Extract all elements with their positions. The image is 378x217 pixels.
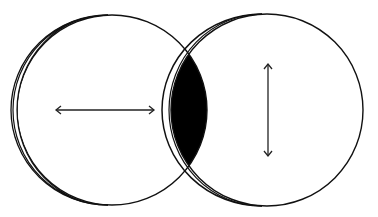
horizontal-double-arrow: [56, 106, 154, 114]
overlapping-circles-diagram: [0, 0, 378, 217]
vertical-double-arrow: [264, 64, 272, 156]
